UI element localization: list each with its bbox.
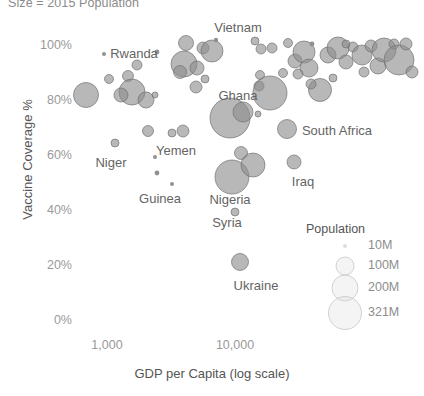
bubble-point[interactable] [201,75,209,83]
bubble-point[interactable] [253,76,287,110]
y-axis-title: Vaccine Coverage % [20,85,35,235]
bubble-point[interactable] [201,40,223,62]
y-tick-label: 20% [22,258,72,272]
bubble-point[interactable] [143,126,154,137]
legend-bubble [336,257,354,275]
point-label: Rwanda [110,46,158,61]
bubble-point[interactable] [155,171,160,176]
legend-label: 200M [368,280,399,294]
bubble-point[interactable] [168,129,176,137]
point-label: Vietnam [214,20,261,35]
bubble-point[interactable] [251,37,259,45]
bubble-point[interactable] [179,36,194,51]
bubble-point[interactable] [174,66,187,79]
bubble-point[interactable] [114,88,128,102]
y-tick-label: 0% [22,313,72,327]
bubble-point[interactable] [287,155,301,169]
point-label: Nigeria [209,192,250,207]
bubble-point[interactable] [74,83,99,108]
bubble-point[interactable] [256,44,266,54]
bubble-point[interactable] [342,40,350,48]
bubble-point[interactable] [102,52,106,56]
point-label: South Africa [302,123,372,138]
bubble-point[interactable] [279,69,288,78]
legend-title: Population [306,222,365,236]
legend-bubble [329,297,362,330]
bubble-point[interactable] [284,39,293,48]
point-label: Niger [95,155,126,170]
bubble-point[interactable] [132,60,142,70]
bubble-chart: Size = 2015 Population 0%20%40%60%80%100… [0,0,424,396]
legend-bubble [343,244,347,248]
bubble-point[interactable] [138,92,154,108]
data-points [74,36,419,271]
x-tick-label: 10,000 [216,338,254,352]
bubble-point[interactable] [400,38,412,50]
point-label: Guinea [139,191,181,206]
bubble-point[interactable] [170,182,174,186]
bubble-point[interactable] [233,102,253,122]
point-label: Ghana [218,88,257,103]
legend-label: 321M [368,305,399,319]
bubble-point[interactable] [190,61,204,75]
bubble-point[interactable] [406,66,418,78]
bubble-point[interactable] [339,55,353,69]
bubble-point[interactable] [105,75,114,84]
bubble-point[interactable] [241,153,265,177]
legend-bubbles [329,244,362,330]
bubble-point[interactable] [177,125,189,137]
point-label: Iraq [292,174,314,189]
bubble-point[interactable] [329,74,337,82]
y-tick-label: 100% [22,38,72,52]
bubble-point[interactable] [267,43,277,53]
bubble-point[interactable] [255,111,261,117]
bubble-point[interactable] [310,42,315,47]
bubble-point[interactable] [293,69,303,79]
bubble-point[interactable] [111,139,119,147]
bubble-point[interactable] [278,120,297,139]
bubble-point[interactable] [306,79,316,89]
x-axis-title: GDP per Capita (log scale) [0,366,424,381]
point-label: Ukraine [234,278,279,293]
legend-label: 100M [368,258,399,272]
legend-label: 10M [368,238,392,252]
x-tick-label: 1,000 [91,338,122,352]
bubble-point[interactable] [232,254,249,271]
bubble-point[interactable] [190,81,202,93]
bubble-point[interactable] [214,38,218,42]
point-label: Yemen [156,143,196,158]
bubble-point[interactable] [359,67,369,77]
point-label: Syria [212,215,242,230]
bubble-point[interactable] [152,92,158,98]
